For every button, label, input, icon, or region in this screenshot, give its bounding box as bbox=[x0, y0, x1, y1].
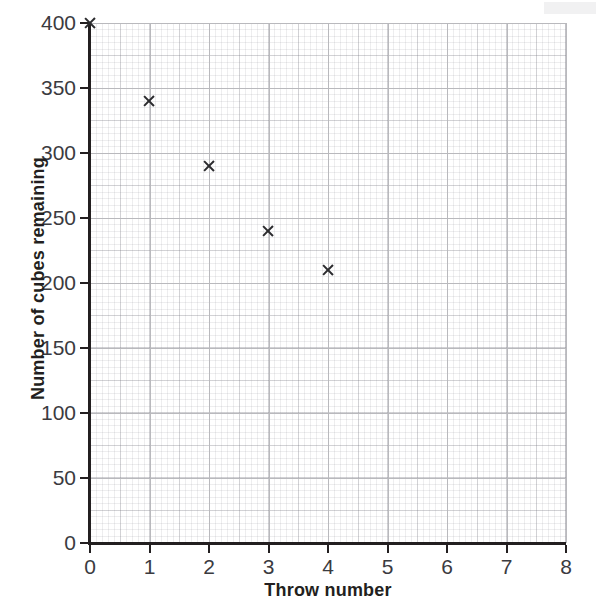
scan-artifact bbox=[544, 2, 596, 14]
y-tick bbox=[80, 152, 89, 154]
data-point-marker bbox=[142, 93, 158, 109]
x-tick-label: 8 bbox=[546, 554, 586, 580]
gridline-horizontal bbox=[90, 153, 566, 154]
scatter-chart: 012345678 050100150200250300350400 Throw… bbox=[0, 0, 600, 610]
y-tick bbox=[80, 412, 89, 414]
x-tick bbox=[565, 545, 567, 553]
x-tick-label: 4 bbox=[308, 554, 348, 580]
y-tick bbox=[80, 347, 89, 349]
gridline-horizontal bbox=[90, 23, 566, 24]
y-axis-title: Number of cubes remaining bbox=[28, 19, 49, 539]
x-tick-label: 3 bbox=[249, 554, 289, 580]
x-tick-label: 2 bbox=[189, 554, 229, 580]
x-tick bbox=[268, 545, 270, 553]
y-tick bbox=[80, 282, 89, 284]
gridline-horizontal bbox=[90, 218, 566, 219]
data-point-marker bbox=[82, 15, 98, 31]
gridline-horizontal bbox=[90, 283, 566, 284]
data-point-marker bbox=[261, 223, 277, 239]
gridline-vertical bbox=[566, 23, 567, 543]
gridline-horizontal bbox=[90, 478, 566, 479]
data-point-marker bbox=[320, 262, 336, 278]
x-tick bbox=[208, 545, 210, 553]
x-axis-title: Throw number bbox=[90, 580, 566, 601]
y-tick bbox=[80, 477, 89, 479]
x-tick bbox=[89, 545, 91, 553]
x-tick-label: 1 bbox=[130, 554, 170, 580]
x-tick-label: 0 bbox=[70, 554, 110, 580]
x-tick bbox=[149, 545, 151, 553]
gridline-horizontal bbox=[90, 413, 566, 414]
x-tick-label: 6 bbox=[427, 554, 467, 580]
gridline-horizontal bbox=[90, 348, 566, 349]
x-tick bbox=[446, 545, 448, 553]
x-tick-label: 7 bbox=[487, 554, 527, 580]
x-tick bbox=[506, 545, 508, 553]
gridline-horizontal bbox=[90, 88, 566, 89]
y-tick bbox=[80, 217, 89, 219]
y-tick bbox=[80, 542, 89, 544]
x-tick bbox=[327, 545, 329, 553]
y-tick bbox=[80, 87, 89, 89]
x-tick-label: 5 bbox=[368, 554, 408, 580]
data-point-marker bbox=[201, 158, 217, 174]
x-tick bbox=[387, 545, 389, 553]
